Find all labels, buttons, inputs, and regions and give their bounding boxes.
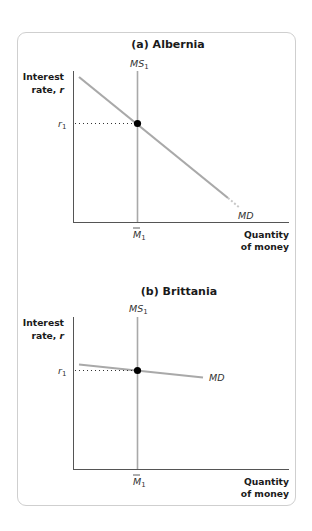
panel-brittania: (b) Brittania MS1 Interest rate, r MD r1…: [23, 285, 289, 499]
rate-tick-label: r1: [58, 365, 66, 378]
money-demand-curve-tail: [228, 198, 240, 208]
quantity-tick-label: M1: [133, 476, 146, 489]
x-axis-label: Quantity: [244, 476, 289, 487]
panel-title: (a) Albernia: [131, 38, 204, 51]
y-axis-label: Interest: [23, 317, 65, 328]
y-axis-label: Interest: [23, 71, 65, 82]
money-demand-curve: [79, 77, 228, 198]
rate-tick-label: r1: [58, 118, 66, 131]
equilibrium-point: [134, 120, 141, 127]
money-market-diagram: (a) Albernia MS1 Interest rate, r MD r1 …: [0, 0, 312, 531]
panel-title: (b) Brittania: [141, 285, 217, 298]
x-axis-label-line2: of money: [241, 488, 289, 499]
demand-curve-label: MD: [238, 210, 254, 221]
y-axis-label-line2: rate, r: [31, 84, 64, 95]
supply-curve-label: MS1: [130, 58, 149, 71]
x-axis-label: Quantity: [244, 229, 289, 240]
equilibrium-point: [134, 367, 141, 374]
quantity-tick-label: M1: [133, 229, 146, 242]
supply-curve-label: MS1: [129, 303, 148, 316]
y-axis-label-line2: rate, r: [31, 330, 64, 341]
panel-albernia: (a) Albernia MS1 Interest rate, r MD r1 …: [23, 38, 289, 252]
demand-curve-label: MD: [209, 372, 225, 383]
x-axis-label-line2: of money: [241, 241, 289, 252]
